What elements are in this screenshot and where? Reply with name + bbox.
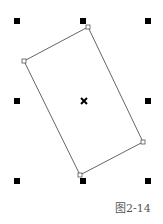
selection-canvas [0,0,163,224]
handle-top-left[interactable] [14,18,20,24]
handle-bottom-left[interactable] [14,178,20,184]
handle-top-right[interactable] [145,18,151,24]
handle-middle-right[interactable] [145,98,151,104]
vertex-node-bottom[interactable] [78,173,82,177]
vertex-node-top[interactable] [86,25,90,29]
handle-bottom-right[interactable] [145,178,151,184]
handle-bottom-middle[interactable] [80,178,86,184]
center-cross-icon[interactable] [81,98,87,104]
vertex-node-left[interactable] [22,59,26,63]
handle-middle-left[interactable] [14,98,20,104]
figure-caption: 图2-14 [115,199,151,215]
vertex-node-right[interactable] [141,140,145,144]
handle-top-middle[interactable] [80,18,86,24]
